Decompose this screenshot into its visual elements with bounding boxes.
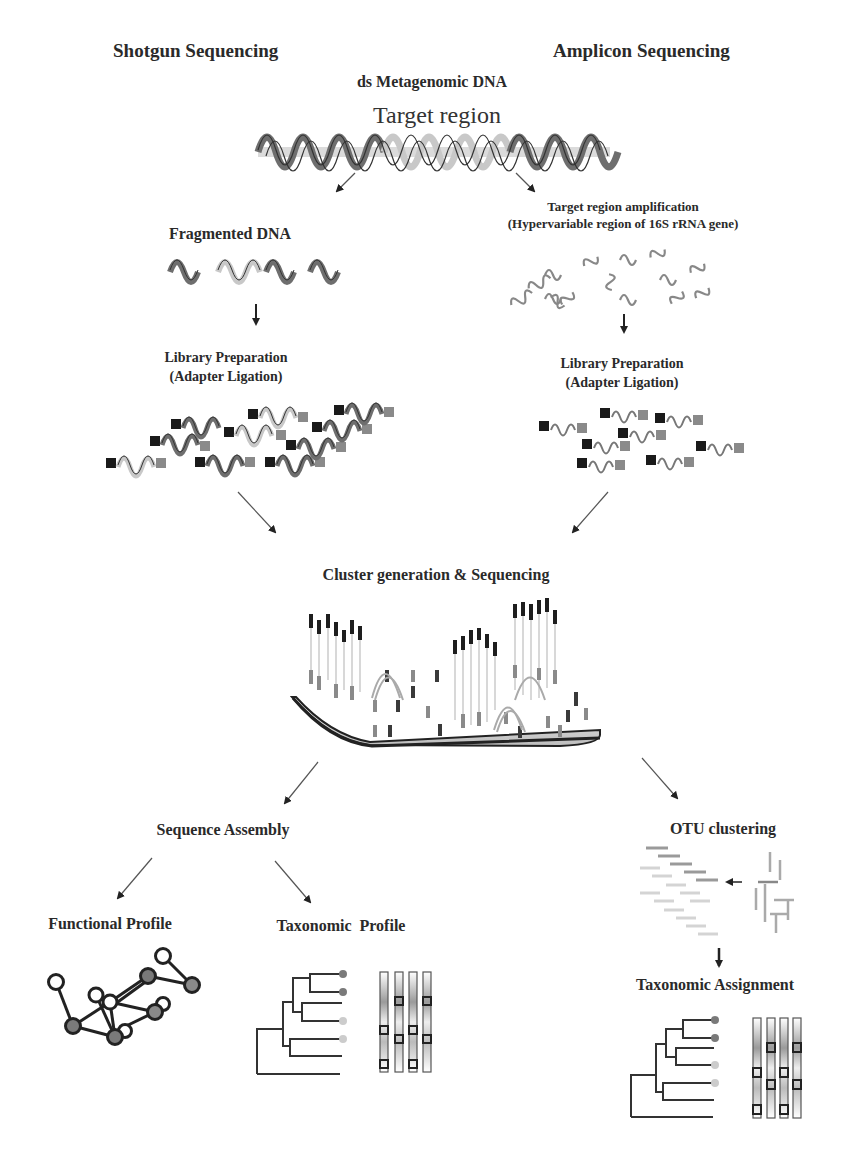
shotgun-adapter-ligated-fragments <box>106 403 394 476</box>
phylogenetic-tree-icon <box>257 971 346 1074</box>
arrow-amplicon-to-cluster <box>573 492 608 532</box>
functional-network-icon <box>49 949 200 1045</box>
diagram-graphics <box>0 0 853 1153</box>
flow-cell-icon <box>292 598 600 746</box>
dna-double-helix-icon <box>258 135 618 171</box>
amplified-fragments-icon <box>509 245 712 310</box>
arrow-to-functional <box>118 858 152 898</box>
otu-clustering-icon <box>640 848 794 934</box>
arrow-shotgun-to-cluster <box>238 492 275 532</box>
arrow-to-otu <box>642 758 677 798</box>
arrow-to-taxonomic <box>275 861 310 902</box>
amplicon-adapter-ligated-fragments <box>539 408 744 473</box>
arrow-to-assembly <box>285 762 318 803</box>
abundance-bars-icon <box>380 972 431 1072</box>
arrow-to-shotgun <box>337 173 355 191</box>
fragmented-dna-icon <box>170 260 338 282</box>
assignment-tree-icon <box>631 1017 718 1117</box>
assignment-abundance-bars-icon <box>753 1018 801 1118</box>
arrow-to-amplicon <box>516 173 534 191</box>
